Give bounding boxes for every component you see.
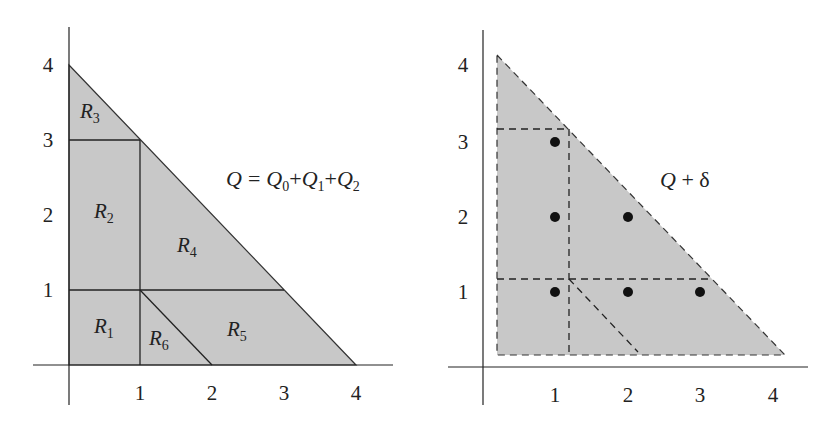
x-tick: 1: [135, 381, 146, 405]
shaded-region-q-delta: [497, 55, 785, 355]
left-panel: 1 2 3 4 1 2 3 4 R1 R2 R3 R4 R5 R6 Q=Q0+Q…: [33, 27, 393, 405]
lattice-point: [695, 287, 705, 297]
y-tick: 3: [458, 130, 469, 154]
x-tick: 2: [623, 383, 634, 407]
y-tick: 1: [458, 280, 469, 304]
right-panel: 1 2 3 4 1 2 3 4 Q + δ: [448, 30, 808, 407]
equation-q-sum: Q=Q0+Q1+Q2: [226, 166, 360, 194]
x-tick: 1: [550, 383, 561, 407]
lattice-point: [550, 137, 560, 147]
x-tick: 4: [351, 381, 362, 405]
y-tick: 2: [458, 205, 469, 229]
x-tick: 3: [279, 381, 290, 405]
lattice-point: [623, 287, 633, 297]
y-tick: 4: [458, 53, 469, 77]
lattice-point: [550, 212, 560, 222]
lattice-point: [550, 287, 560, 297]
x-tick: 2: [207, 381, 218, 405]
lattice-point: [623, 212, 633, 222]
y-tick: 3: [43, 128, 54, 152]
figure: 1 2 3 4 1 2 3 4 R1 R2 R3 R4 R5 R6 Q=Q0+Q…: [0, 0, 834, 436]
y-tick: 1: [43, 278, 54, 302]
y-tick: 4: [43, 53, 54, 77]
x-tick: 3: [695, 383, 706, 407]
y-tick: 2: [43, 203, 54, 227]
x-tick: 4: [768, 383, 779, 407]
label-q-plus-delta: Q + δ: [660, 167, 710, 192]
